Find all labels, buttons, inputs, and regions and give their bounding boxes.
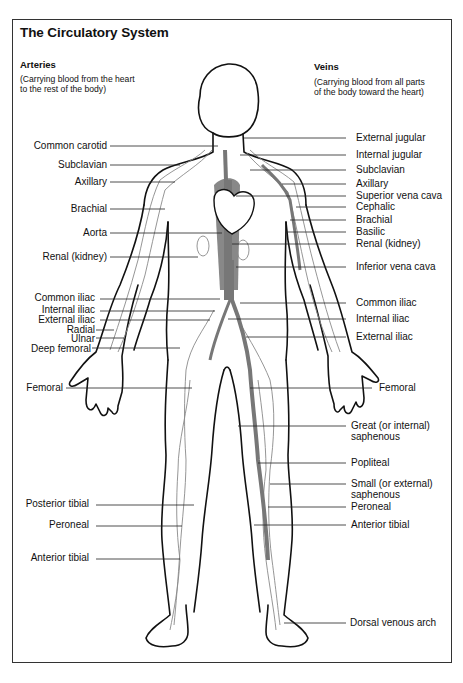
vein-label-anterior-tibial: Anterior tibial xyxy=(351,519,409,530)
vein-label-femoral: Femoral xyxy=(379,382,416,393)
vein-label-popliteal: Popliteal xyxy=(351,457,389,468)
vein-label-subclavian: Subclavian xyxy=(356,164,405,175)
vein-label-external-jugular: External jugular xyxy=(356,132,425,143)
vein-label-internal-jugular: Internal jugular xyxy=(356,149,422,160)
vein-label-dorsal-venous-arch: Dorsal venous arch xyxy=(350,617,436,628)
vein-label-cephalic: Cephalic xyxy=(356,201,395,212)
artery-label-axillary: Axillary xyxy=(75,176,107,187)
vein-label-internal-iliac: Internal iliac xyxy=(356,313,409,324)
vein-label-inferior-vena-cava: Inferior vena cava xyxy=(356,261,436,272)
vein-label-brachial: Brachial xyxy=(356,214,392,225)
artery-label-brachial: Brachial xyxy=(71,203,107,214)
vein-label-great-saphenous-line: saphenous xyxy=(351,431,430,442)
artery-label-femoral: Femoral xyxy=(26,382,63,393)
vein-label-basilic: Basilic xyxy=(356,226,385,237)
artery-label-renal: Renal (kidney) xyxy=(43,251,107,262)
vein-label-small-saphenous-line: saphenous xyxy=(351,489,433,500)
vein-label-small-saphenous: Small (or external) saphenous xyxy=(351,478,433,500)
vein-label-small-saphenous-line: Small (or external) xyxy=(351,478,433,489)
vein-label-common-iliac: Common iliac xyxy=(356,297,417,308)
artery-label-common-carotid: Common carotid xyxy=(34,140,107,151)
vein-label-axillary: Axillary xyxy=(356,178,388,189)
artery-label-posterior-tibial: Posterior tibial xyxy=(26,498,89,509)
vein-label-great-saphenous-line: Great (or internal) xyxy=(351,420,430,431)
artery-label-peroneal: Peroneal xyxy=(49,519,89,530)
vein-label-external-iliac: External iliac xyxy=(356,331,413,342)
vein-label-great-saphenous: Great (or internal) saphenous xyxy=(351,420,430,442)
vein-label-renal: Renal (kidney) xyxy=(356,238,420,249)
artery-label-aorta: Aorta xyxy=(83,227,107,238)
vein-label-peroneal: Peroneal xyxy=(351,501,391,512)
vein-label-superior-vena-cava: Superior vena cava xyxy=(356,190,442,201)
artery-label-common-iliac: Common iliac xyxy=(34,292,95,303)
artery-label-anterior-tibial: Anterior tibial xyxy=(31,552,89,563)
artery-label-deep-femoral: Deep femoral xyxy=(31,343,91,354)
artery-label-subclavian: Subclavian xyxy=(58,159,107,170)
